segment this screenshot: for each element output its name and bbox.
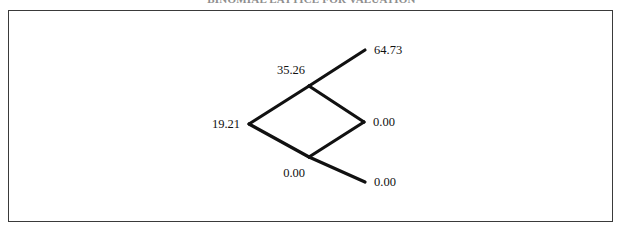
- lattice-branch: [309, 157, 365, 182]
- lattice-node-value: 19.21: [212, 118, 240, 131]
- lattice-node-value: 35.26: [277, 64, 305, 77]
- lattice-branch: [309, 50, 365, 86]
- lattice-node-value: 64.73: [374, 44, 402, 57]
- lattice-edge-group: [249, 50, 365, 182]
- lattice-node-value: 0.00: [373, 116, 395, 129]
- lattice-node-value: 0.00: [283, 167, 305, 180]
- lattice-branch: [249, 86, 309, 124]
- lattice-branch: [309, 86, 364, 122]
- binomial-lattice-figure: BINOMIAL LATTICE FOR VALUATION 19.2135.2…: [0, 0, 623, 231]
- lattice-node-value: 0.00: [374, 176, 396, 189]
- lattice-branch: [249, 124, 309, 157]
- lattice-canvas: [0, 0, 623, 231]
- lattice-branch: [309, 122, 364, 157]
